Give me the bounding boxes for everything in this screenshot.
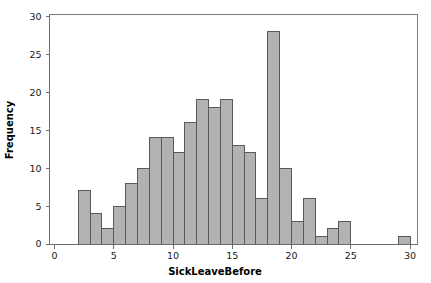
y-axis-title: Frequency (4, 100, 15, 159)
y-tick-label: 5 (35, 201, 41, 212)
histogram-bar (149, 138, 161, 244)
histogram-bar (339, 221, 351, 244)
histogram-bar (244, 153, 256, 244)
y-tick-label: 15 (29, 125, 41, 136)
histogram-bar (137, 168, 149, 244)
histogram-bar (327, 229, 339, 244)
x-tick-label: 25 (345, 250, 357, 261)
histogram-bar (280, 168, 292, 244)
histogram-bar (78, 191, 90, 244)
histogram-bar (161, 138, 173, 244)
y-tick-label: 10 (29, 163, 41, 174)
histogram-bar (232, 145, 244, 244)
histogram-bar (268, 31, 280, 244)
histogram-bar (315, 236, 327, 244)
histogram-bar (126, 183, 138, 244)
x-tick-label: 15 (226, 250, 238, 261)
x-tick-label: 5 (111, 250, 117, 261)
histogram-bar (173, 153, 185, 244)
histogram-chart: 051015202530 051015202530 SickLeaveBefor… (0, 0, 431, 283)
x-tick-label: 10 (167, 250, 179, 261)
histogram-bar (256, 198, 268, 244)
histogram-bar (398, 236, 410, 244)
histogram-bar (114, 206, 126, 244)
histogram-bar (209, 107, 221, 244)
chart-canvas: 051015202530 051015202530 SickLeaveBefor… (0, 0, 431, 283)
x-tick-label: 20 (285, 250, 297, 261)
y-tick-label: 25 (29, 49, 41, 60)
y-tick-label: 20 (29, 87, 41, 98)
x-tick-label: 30 (404, 250, 416, 261)
histogram-bar (303, 198, 315, 244)
x-axis-title: SickLeaveBefore (168, 266, 262, 277)
x-axis: 051015202530 (50, 245, 418, 262)
histogram-bar (185, 123, 197, 244)
y-axis: 051015202530 (29, 11, 49, 250)
histogram-bar (292, 221, 304, 244)
x-tick-label: 0 (51, 250, 57, 261)
y-tick-label: 30 (29, 11, 41, 22)
histogram-bar (102, 229, 114, 244)
histogram-bar (90, 214, 102, 244)
bars-group (78, 31, 410, 244)
histogram-bar (220, 100, 232, 244)
y-tick-label: 0 (35, 238, 41, 249)
histogram-bar (197, 100, 209, 244)
